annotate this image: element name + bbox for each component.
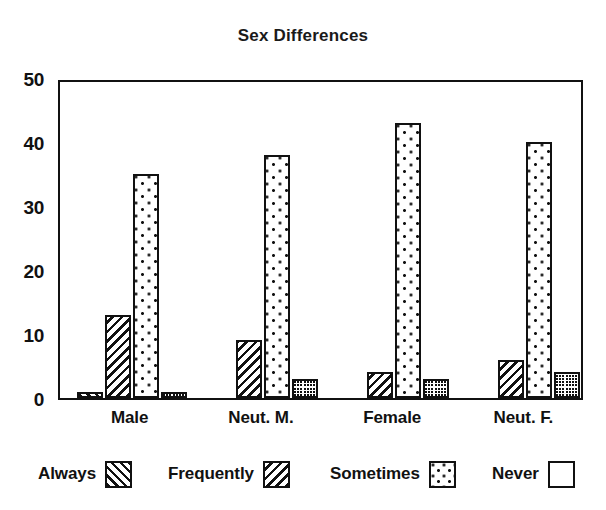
legend-swatch-always — [105, 461, 132, 488]
chart-legend: AlwaysFrequentlySometimesNever — [30, 458, 582, 494]
bar-male-never — [161, 392, 187, 398]
y-axis-tick-labels: 01020304050 — [0, 80, 52, 400]
plot-area — [58, 80, 583, 400]
x-axis-label-female: Female — [332, 408, 452, 428]
bar-female-never — [423, 379, 449, 398]
legend-label: Frequently — [168, 464, 254, 484]
chart-title: Sex Differences — [0, 26, 606, 46]
y-axis-tick-label: 30 — [0, 197, 44, 219]
x-axis-label-neut-m: Neut. M. — [201, 408, 321, 428]
bars-layer — [60, 82, 581, 398]
legend-swatch-sometimes — [429, 461, 456, 488]
x-axis-label-male: Male — [70, 408, 190, 428]
x-axis-label-neut-f: Neut. F. — [463, 408, 583, 428]
bar-neut-f-frequently — [498, 360, 524, 398]
bar-male-frequently — [105, 315, 131, 398]
chart-container: Sex Differences 01020304050 MaleNeut. M.… — [0, 0, 606, 510]
y-axis-tick-label: 0 — [0, 389, 44, 411]
bar-neut-m-sometimes — [264, 155, 290, 398]
bar-group-female — [339, 82, 449, 398]
bar-neut-f-sometimes — [526, 142, 552, 398]
bar-male-always — [77, 392, 103, 398]
legend-swatch-frequently — [263, 461, 290, 488]
bar-female-sometimes — [395, 123, 421, 398]
bar-neut-f-never — [554, 372, 580, 398]
x-axis-category-labels: MaleNeut. M.FemaleNeut. F. — [58, 408, 583, 438]
bar-male-sometimes — [133, 174, 159, 398]
y-axis-tick-label: 50 — [0, 69, 44, 91]
bar-female-frequently — [367, 372, 393, 398]
legend-entry-sometimes[interactable]: Sometimes — [330, 458, 456, 490]
y-axis-tick-label: 40 — [0, 133, 44, 155]
legend-entry-frequently[interactable]: Frequently — [168, 458, 290, 490]
y-axis-tick-label: 10 — [0, 325, 44, 347]
y-axis-tick-label: 20 — [0, 261, 44, 283]
legend-entry-never[interactable]: Never — [492, 458, 575, 490]
legend-entry-always[interactable]: Always — [38, 458, 132, 490]
bar-neut-m-never — [292, 379, 318, 398]
legend-swatch-never — [548, 461, 575, 488]
legend-label: Sometimes — [330, 464, 420, 484]
bar-neut-m-frequently — [236, 340, 262, 398]
bar-group-neut-f — [470, 82, 580, 398]
legend-label: Always — [38, 464, 96, 484]
bar-group-neut-m — [208, 82, 318, 398]
bar-group-male — [77, 82, 187, 398]
legend-label: Never — [492, 464, 539, 484]
